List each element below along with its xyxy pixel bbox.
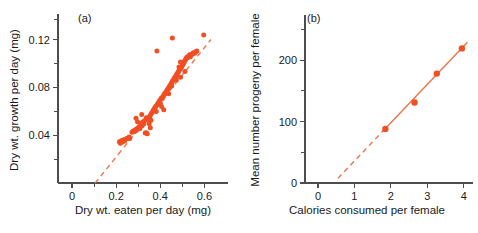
panel-b-x-tick-label: 1: [351, 190, 357, 202]
panel-b-x-tick-label: 2: [388, 190, 394, 202]
panel-a-label: (a): [78, 12, 91, 24]
data-point: [145, 131, 150, 136]
panel-b-fit-line: [385, 42, 467, 128]
panel-a-y-tick-label: 0.08: [29, 81, 50, 93]
panel-b-scatter-chart: 012340100200 (b) Calories consumed per f…: [239, 0, 478, 233]
panel-a-scatter-chart: 00.20.40.60.040.080.12 (a) Dry wt. eaten…: [0, 0, 239, 233]
data-point: [133, 116, 138, 121]
panel-a-svg: 00.20.40.60.040.080.12 (a) Dry wt. eaten…: [0, 0, 239, 233]
panel-b-y-tick-label: 200: [279, 54, 297, 66]
panel-a-plot-area: 00.20.40.60.040.080.12: [29, 14, 228, 202]
data-point: [459, 45, 465, 51]
data-point: [154, 109, 159, 114]
panel-a-y-tick-label: 0.04: [29, 129, 50, 141]
data-point: [178, 75, 183, 80]
panel-b-x-tick-label: 4: [461, 190, 467, 202]
data-point: [170, 35, 175, 40]
panel-b-y-axis-title: Mean number progeny per female: [249, 13, 261, 186]
data-point: [434, 70, 440, 76]
data-point: [148, 125, 153, 130]
panel-a-x-tick-label: 0.2: [108, 190, 123, 202]
figure-container: 00.20.40.60.040.080.12 (a) Dry wt. eaten…: [0, 0, 478, 233]
panel-b-x-tick-label: 3: [424, 190, 430, 202]
panel-b-y-tick-label: 100: [279, 116, 297, 128]
data-point: [154, 48, 159, 53]
data-point: [169, 83, 174, 88]
data-point: [144, 115, 149, 120]
panel-a-y-axis-title: Dry wt. growth per day (mg): [8, 29, 20, 171]
panel-b-plot-area: 012340100200: [279, 15, 473, 202]
data-point: [139, 112, 144, 117]
data-point: [127, 136, 132, 141]
data-point: [201, 33, 206, 38]
panel-b-fit-line-extrapolated: [338, 128, 385, 178]
panel-a-fit-line-extrapolated: [95, 154, 118, 183]
panel-b-svg: 012340100200 (b) Calories consumed per f…: [239, 0, 478, 233]
panel-b-label: (b): [307, 12, 320, 24]
data-point: [182, 69, 187, 74]
data-point: [166, 91, 171, 96]
panel-b-x-tick-label: 0: [315, 190, 321, 202]
data-point: [174, 77, 179, 82]
panel-a-x-axis-title: Dry wt. eaten per day (mg): [75, 204, 211, 216]
panel-a-y-tick-label: 0.12: [29, 34, 50, 46]
data-point: [161, 107, 166, 112]
data-point: [178, 60, 183, 65]
panel-a-x-tick-label: 0: [69, 190, 75, 202]
data-point: [194, 48, 199, 53]
data-point: [382, 126, 388, 132]
panel-a-x-tick-label: 0.6: [197, 190, 212, 202]
data-point: [411, 99, 417, 105]
panel-b-y-tick-label: 0: [291, 177, 297, 189]
panel-a-x-tick-label: 0.4: [153, 190, 168, 202]
data-point: [176, 65, 181, 70]
panel-b-x-axis-title: Calories consumed per female: [289, 204, 445, 216]
